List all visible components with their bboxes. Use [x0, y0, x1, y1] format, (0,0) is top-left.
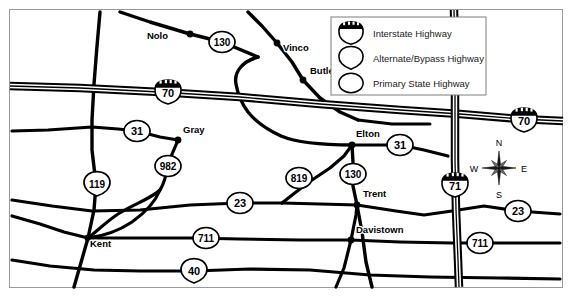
city-dot	[349, 142, 356, 149]
route-shield-70[interactable]: 70	[511, 108, 537, 132]
route-number: 119	[89, 179, 106, 190]
legend-shield-primary-state-icon	[339, 73, 363, 93]
route-number: 711	[198, 233, 215, 244]
route-number: 70	[518, 115, 530, 127]
compass-label-east: E	[521, 164, 527, 174]
map-legend: Interstate HighwayAlternate/Bypass Highw…	[331, 17, 486, 95]
route-number: 819	[291, 173, 308, 184]
route-shield-711[interactable]: 711	[193, 228, 219, 249]
compass-label-west: W	[470, 164, 479, 174]
city-label: Trent	[363, 188, 387, 199]
city-label: Nolo	[147, 30, 168, 41]
compass-label-north: N	[496, 138, 503, 148]
map-canvas: NoloNoloVincoVincoButlerButlerGrayGrayEl…	[0, 0, 573, 297]
compass-label-south: S	[496, 190, 502, 200]
highway-map: NoloNoloVincoVincoButlerButlerGrayGrayEl…	[0, 0, 573, 297]
route-shield-819[interactable]: 819	[286, 168, 312, 189]
route-number: 23	[234, 197, 246, 209]
city-dot	[274, 40, 281, 47]
legend-shield-interstate-icon	[339, 22, 363, 45]
route-number: 31	[131, 125, 143, 137]
route-number: 711	[472, 238, 489, 249]
city-label: Davistown	[356, 224, 404, 235]
route-shield-130[interactable]: 130	[340, 164, 366, 185]
route-shield-23[interactable]: 23	[505, 201, 531, 222]
city-dot	[300, 77, 307, 84]
route-shield-31[interactable]: 31	[387, 135, 413, 156]
route-number: 23	[512, 205, 524, 217]
city-dot	[175, 137, 182, 144]
route-number: 130	[214, 37, 231, 48]
route-shield-31[interactable]: 31	[124, 121, 150, 142]
route-shield-130[interactable]: 130	[209, 32, 235, 53]
route-number: 40	[188, 265, 200, 277]
route-number: 130	[345, 169, 362, 180]
route-shield-70[interactable]: 70	[155, 80, 181, 104]
city-dot	[187, 31, 194, 38]
city-label: Vinco	[283, 42, 309, 53]
city-label: Elton	[356, 128, 380, 139]
legend-label: Alternate/Bypass Highway	[373, 53, 484, 64]
legend-label: Primary State Highway	[373, 78, 470, 89]
route-number: 71	[449, 180, 461, 192]
legend-label: Interstate Highway	[373, 28, 452, 39]
route-number: 31	[394, 139, 406, 151]
route-shield-982[interactable]: 982	[155, 156, 181, 177]
city-dot	[348, 237, 355, 244]
city-dot	[354, 202, 361, 209]
route-shield-711[interactable]: 711	[467, 233, 493, 254]
city-label: Kent	[90, 238, 112, 249]
route-shield-23[interactable]: 23	[227, 193, 253, 214]
route-number: 982	[160, 161, 177, 172]
route-number: 70	[162, 87, 174, 99]
city-label: Gray	[183, 124, 205, 135]
route-shield-71[interactable]: 71	[442, 173, 468, 197]
